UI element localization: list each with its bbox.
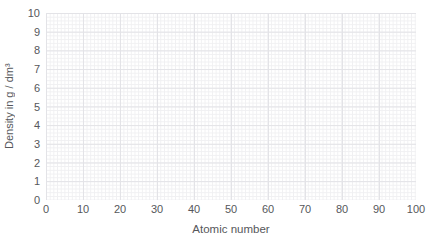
x-tick-label: 90 (373, 204, 385, 215)
y-tick-label: 7 (10, 64, 40, 75)
x-tick-label: 20 (114, 204, 126, 215)
x-axis-title: Atomic number (46, 223, 416, 235)
y-tick-label: 5 (10, 101, 40, 112)
density-vs-atomic-number-chart: Density in g / dm³ 012345678910 01020304… (0, 0, 430, 248)
plot-area (46, 13, 416, 200)
y-tick-label: 3 (10, 138, 40, 149)
x-tick-label: 10 (77, 204, 89, 215)
x-tick-label: 100 (407, 204, 425, 215)
x-tick-label: 40 (188, 204, 200, 215)
x-tick-label: 70 (299, 204, 311, 215)
x-tick-label: 0 (43, 204, 49, 215)
y-tick-label: 4 (10, 120, 40, 131)
y-tick-label: 9 (10, 26, 40, 37)
y-tick-label: 1 (10, 176, 40, 187)
y-tick-label: 2 (10, 157, 40, 168)
y-tick-label: 8 (10, 45, 40, 56)
y-tick-label: 0 (10, 195, 40, 206)
x-tick-label: 30 (151, 204, 163, 215)
x-tick-label: 80 (336, 204, 348, 215)
y-tick-label: 6 (10, 82, 40, 93)
y-tick-label: 10 (10, 8, 40, 19)
x-tick-label: 50 (225, 204, 237, 215)
x-tick-label: 60 (262, 204, 274, 215)
